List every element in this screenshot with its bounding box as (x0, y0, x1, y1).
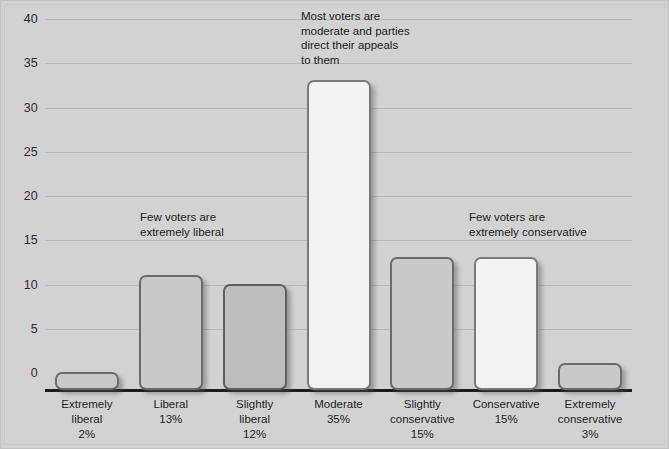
x-axis-label-extremely-liberal: Extremely liberal 2% (45, 397, 129, 442)
chart-figure: 40 35 30 25 20 15 10 5 0 Extremely liber… (0, 0, 669, 449)
bar-slightly-conservative (390, 257, 454, 390)
plot-area: 40 35 30 25 20 15 10 5 0 (45, 19, 632, 391)
bar-liberal (139, 275, 203, 390)
ytick-label-5: 5 (31, 322, 38, 336)
x-axis-label-extremely-conservative: Extremely conservative 3% (548, 397, 632, 442)
x-axis-label-liberal: Liberal 13% (129, 397, 213, 427)
ytick-label-30: 30 (24, 101, 38, 115)
x-axis-label-conservative: Conservative 15% (464, 397, 548, 427)
ytick-label-20: 20 (24, 189, 38, 203)
x-axis-label-moderate: Moderate 35% (297, 397, 381, 427)
annotation-moderate: Most voters are moderate and parties dir… (301, 9, 410, 67)
bar-slightly-liberal (223, 284, 287, 390)
bar-moderate (307, 80, 371, 390)
annotation-extremely-liberal: Few voters are extremely liberal (140, 210, 224, 239)
ytick-label-0: 0 (31, 366, 38, 380)
ytick-label-35: 35 (24, 56, 38, 70)
ytick-label-15: 15 (24, 233, 38, 247)
bar-extremely-conservative (558, 363, 622, 390)
x-axis-label-slightly-conservative: Slightly conservative 15% (380, 397, 464, 442)
ytick-label-40: 40 (24, 12, 38, 26)
bar-conservative (474, 257, 538, 390)
ytick-label-10: 10 (24, 278, 38, 292)
annotation-extremely-conservative: Few voters are extremely conservative (469, 210, 587, 239)
ytick-label-25: 25 (24, 145, 38, 159)
x-axis-label-slightly-liberal: Slightly liberal 12% (213, 397, 297, 442)
bar-extremely-liberal (55, 372, 119, 390)
